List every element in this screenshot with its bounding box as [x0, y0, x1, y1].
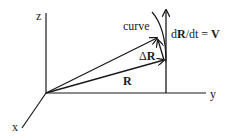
- y-axis-label: y: [210, 87, 216, 101]
- x-axis: [22, 93, 46, 128]
- position-vector-r-plus-delta-arrow: [46, 38, 157, 93]
- delta-r-arrow: [158, 40, 164, 60]
- curve-label: curve: [123, 19, 150, 33]
- delta-r-label: ΔR: [139, 49, 156, 63]
- z-axis-label: z: [36, 9, 41, 23]
- velocity-label: dR/dt = V: [171, 27, 220, 41]
- position-vector-r-arrow: [46, 60, 164, 93]
- x-axis-label: x: [12, 120, 18, 134]
- velocity-vector-diagram: z y x curve dR/dt = V R ΔR: [0, 0, 231, 140]
- position-vector-r-label: R: [123, 74, 132, 88]
